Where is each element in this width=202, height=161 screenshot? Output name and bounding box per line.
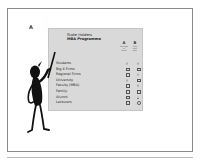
stakeholder-list: StudentsBig 4 FirmsRegional FirmsUnivers… (56, 61, 141, 106)
square-icon (137, 90, 141, 94)
triangle-icon (137, 73, 139, 76)
square-icon (137, 68, 141, 72)
triangle-icon (137, 96, 139, 99)
stakeholder-row: Lecturers (56, 100, 141, 106)
triangle-icon (137, 62, 139, 65)
triangle-icon (126, 62, 128, 65)
stakeholder-label: Lecturers (56, 100, 72, 106)
triangle-icon (137, 84, 139, 87)
square-icon (126, 101, 130, 105)
stakeholder-board: Stake Holders MBA Programme A Strength o… (48, 28, 143, 111)
square-icon (126, 96, 130, 100)
square-icon (137, 79, 141, 83)
stick-figure-pointing-icon (26, 50, 56, 135)
square-icon (126, 68, 130, 72)
square-icon (126, 73, 130, 77)
bottom-divider (7, 157, 193, 158)
square-icon (126, 90, 130, 94)
column-header-b: B Only have time (128, 41, 142, 52)
circle-icon (137, 101, 141, 105)
figure-label: A (29, 24, 33, 30)
square-icon (126, 84, 130, 88)
triangle-icon (126, 79, 128, 82)
column-b-sub-3: time (128, 49, 142, 51)
board-title: Stake Holders MBA Programme (67, 33, 101, 42)
board-title-line2: MBA Programme (67, 37, 101, 41)
